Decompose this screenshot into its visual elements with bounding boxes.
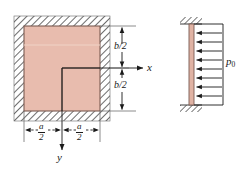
engineering-figure: b/2 b/2 a 2 a 2 x y p0 xyxy=(0,0,240,173)
pressure-distribution-outline xyxy=(194,24,223,105)
fraction-denominator: 2 xyxy=(76,133,83,142)
pressure-label-p0: p0 xyxy=(226,56,235,69)
pressure-subscript: 0 xyxy=(232,60,236,69)
dimension-label-b-over-2-top: b/2 xyxy=(114,41,127,51)
fraction-denominator: 2 xyxy=(38,133,45,142)
dimension-label-a-over-2-left: a 2 xyxy=(38,122,45,142)
pressure-arrows xyxy=(197,33,223,96)
fraction-numerator: a xyxy=(38,122,45,131)
axis-label-x: x xyxy=(147,62,152,73)
edge-view-plate-bar xyxy=(189,24,194,105)
fraction-numerator: a xyxy=(76,122,83,131)
axis-label-y: y xyxy=(57,152,62,163)
dimension-label-b-over-2-bottom: b/2 xyxy=(114,80,127,90)
dimension-label-a-over-2-right: a 2 xyxy=(76,122,83,142)
